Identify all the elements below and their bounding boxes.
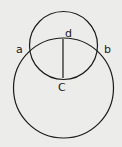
label-a: a	[16, 43, 23, 56]
label-b: b	[104, 43, 111, 56]
two-circles-diagram: a b d C	[0, 0, 122, 147]
background	[0, 0, 122, 147]
label-c: C	[58, 81, 66, 94]
label-d: d	[65, 27, 72, 40]
